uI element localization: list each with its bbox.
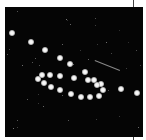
background-star xyxy=(43,106,44,107)
background-star xyxy=(128,42,129,43)
background-star xyxy=(68,120,69,121)
planet-exposure xyxy=(48,84,54,90)
background-star xyxy=(38,94,39,95)
background-star xyxy=(138,127,139,128)
background-star xyxy=(7,54,8,55)
planet-exposure xyxy=(96,93,102,99)
planet-exposure xyxy=(57,87,63,93)
background-star xyxy=(119,116,120,117)
planet-exposure xyxy=(47,72,53,78)
background-star xyxy=(119,30,120,31)
background-star xyxy=(17,127,18,128)
planet-exposure xyxy=(9,30,15,36)
planet-exposure xyxy=(94,82,100,88)
background-star xyxy=(108,90,109,91)
background-star xyxy=(17,11,18,12)
background-star xyxy=(27,99,28,100)
planet-exposure xyxy=(41,80,47,86)
planet-exposure xyxy=(39,72,45,78)
background-star xyxy=(32,62,33,63)
planet-exposure xyxy=(42,47,48,53)
background-star xyxy=(73,80,74,81)
planet-exposure xyxy=(68,91,74,97)
planet-exposure xyxy=(57,55,63,61)
planet-exposure xyxy=(78,94,84,100)
planet-exposure xyxy=(71,75,77,81)
background-star xyxy=(136,50,137,51)
edge-tick-bottom xyxy=(133,137,134,140)
planet-exposure xyxy=(118,86,124,92)
astro-photo xyxy=(5,7,143,137)
edge-tick-top xyxy=(133,0,134,7)
planet-exposure xyxy=(134,90,140,96)
planet-exposure xyxy=(87,94,93,100)
planet-exposure xyxy=(57,73,63,79)
planet-exposure xyxy=(28,39,34,45)
background-star xyxy=(70,24,71,25)
planet-exposure xyxy=(100,87,106,93)
planet-exposure xyxy=(85,77,91,83)
